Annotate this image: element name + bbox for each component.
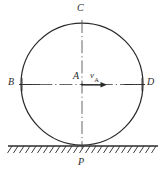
point-label-c: C [77, 3, 84, 13]
velocity-subscript: A [94, 76, 99, 83]
velocity-vector-arrowhead [101, 82, 108, 88]
mechanics-diagram-svg [0, 0, 164, 173]
point-label-p: P [78, 157, 84, 167]
point-label-b: B [8, 77, 14, 87]
point-label-a: A [73, 71, 79, 81]
figure-container: C B A vA D P [0, 0, 164, 173]
point-label-d: D [147, 77, 154, 87]
velocity-label: vA [90, 71, 99, 82]
